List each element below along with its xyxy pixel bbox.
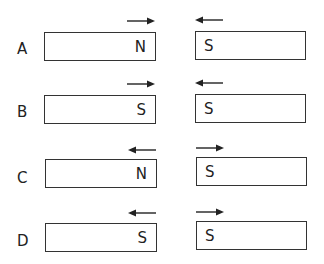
left-magnet: S: [45, 223, 157, 252]
right-magnet: S: [196, 157, 307, 186]
left-magnet-pole: S: [136, 101, 146, 119]
left-magnet: S: [44, 95, 156, 124]
left-magnet: N: [45, 159, 157, 188]
right-magnet: S: [196, 221, 307, 250]
arrow-left-icon: [128, 146, 156, 154]
left-magnet-pole: N: [135, 38, 146, 56]
option-label: C: [17, 169, 27, 187]
right-magnet-pole: S: [205, 227, 215, 245]
option-row-c: C N S: [0, 143, 324, 203]
arrow-right-icon: [127, 17, 155, 25]
right-magnet-pole: S: [204, 100, 214, 118]
arrow-right-icon: [196, 208, 224, 216]
right-magnet-pole: S: [205, 163, 215, 181]
arrow-left-icon: [195, 16, 223, 24]
option-label: A: [17, 40, 27, 58]
option-row-b: B S S: [0, 77, 324, 137]
option-label: B: [17, 103, 27, 121]
left-magnet: N: [44, 32, 156, 61]
left-magnet-pole: N: [136, 165, 147, 183]
arrow-right-icon: [196, 144, 224, 152]
left-magnet-pole: S: [137, 229, 147, 247]
right-magnet: S: [195, 31, 306, 60]
arrow-left-icon: [195, 79, 223, 87]
option-row-a: A N S: [0, 14, 324, 74]
arrow-right-icon: [127, 80, 155, 88]
right-magnet-pole: S: [204, 37, 214, 55]
option-label: D: [17, 232, 29, 250]
arrow-left-icon: [128, 209, 156, 217]
right-magnet: S: [195, 94, 306, 123]
option-row-d: D S S: [0, 207, 324, 264]
